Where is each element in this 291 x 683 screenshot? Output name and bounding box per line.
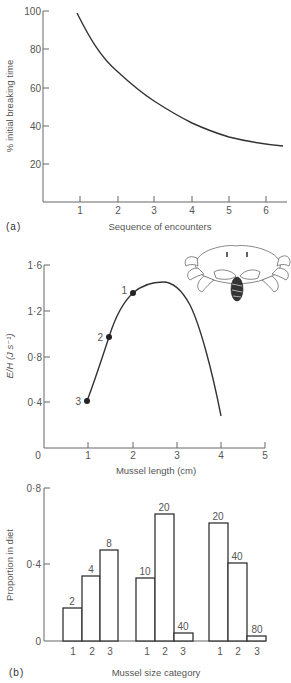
point-label: 1 <box>121 285 127 296</box>
panel-a-yticks: 100 80 60 40 20 <box>24 6 49 170</box>
ytick-label: 0 <box>35 636 41 647</box>
xtick-label: 3 <box>174 450 180 461</box>
panel-a-label: (a) <box>6 221 21 232</box>
bar-label: 40 <box>231 551 243 562</box>
panel-mid-xticks: 0 1 2 3 4 5 <box>35 442 268 461</box>
xtick-label: 1 <box>217 646 223 657</box>
ytick-label: 20 <box>30 159 42 170</box>
ytick-label: 100 <box>24 6 41 17</box>
panel-b-ylabel: Proportion in diet <box>4 529 15 601</box>
ytick-label: 0·4 <box>28 397 43 408</box>
panel-b-xticks: 1 2 3 1 2 3 1 2 3 <box>70 646 260 657</box>
bar-label: 4 <box>88 564 94 575</box>
panel-energy-chart: 1·6 1·2 0·8 0·4 0 1 2 3 4 5 1 2 3 <box>4 246 290 476</box>
ytick-label: 1·2 <box>28 306 43 317</box>
xtick-label: 1 <box>144 646 150 657</box>
point-label: 2 <box>97 332 103 343</box>
xtick-label: 3 <box>180 646 186 657</box>
bar-label: 20 <box>158 502 170 513</box>
data-point <box>106 334 112 340</box>
xtick-label: 0 <box>35 450 41 461</box>
bar <box>63 608 82 641</box>
point-label: 3 <box>75 396 81 407</box>
ytick-label: 60 <box>30 83 42 94</box>
panel-a-ylabel: % initial breaking time <box>4 60 15 152</box>
xtick-label: 2 <box>115 205 121 216</box>
panel-a-chart: 100 80 60 40 20 1 2 3 4 5 6 % initial br… <box>4 6 287 232</box>
panel-a-xticks: 1 2 3 4 5 6 <box>77 196 269 216</box>
panel-b-label: (b) <box>9 667 24 678</box>
bar <box>228 563 247 641</box>
panel-mid-yticks: 1·6 1·2 0·8 0·4 <box>28 260 50 408</box>
xtick-label: 3 <box>107 646 113 657</box>
bar-group-3: 20 40 80 <box>209 511 266 641</box>
xtick-label: 5 <box>262 450 268 461</box>
bar-label: 80 <box>251 624 263 635</box>
bar <box>100 550 118 641</box>
bar-label: 2 <box>69 596 75 607</box>
bar-label: 40 <box>177 621 189 632</box>
bar <box>209 523 228 641</box>
panel-a-xlabel: Sequence of encounters <box>109 221 212 232</box>
ytick-label: 0·4 <box>27 559 42 570</box>
panel-mid-curve <box>87 282 221 416</box>
ytick-label: 0·8 <box>27 483 42 494</box>
xtick-label: 6 <box>263 205 269 216</box>
xtick-label: 2 <box>162 646 168 657</box>
xtick-label: 1 <box>77 205 83 216</box>
figure: 100 80 60 40 20 1 2 3 4 5 6 % initial br… <box>0 0 291 683</box>
ytick-label: 40 <box>30 121 42 132</box>
xtick-label: 1 <box>70 646 76 657</box>
xtick-label: 5 <box>226 205 232 216</box>
bar-group-1: 2 4 8 <box>63 538 118 641</box>
xtick-label: 3 <box>151 205 157 216</box>
xtick-label: 3 <box>254 646 260 657</box>
xtick-label: 4 <box>218 450 224 461</box>
panel-mid-ylabel: E/H (J s⁻¹) <box>4 333 15 378</box>
xtick-label: 2 <box>89 646 95 657</box>
panel-b-yticks: 0·8 0·4 0 <box>27 483 50 647</box>
bar <box>155 514 174 641</box>
ytick-label: 80 <box>30 44 42 55</box>
bar-label: 10 <box>139 566 151 577</box>
xtick-label: 1 <box>85 450 91 461</box>
data-point <box>130 290 136 296</box>
bar <box>136 578 155 641</box>
ytick-label: 1·6 <box>28 260 43 271</box>
bar <box>174 633 193 641</box>
xtick-label: 2 <box>235 646 241 657</box>
bar-label: 8 <box>106 538 112 549</box>
panel-b-xlabel: Mussel size category <box>112 667 201 678</box>
bar-group-2: 10 20 40 <box>136 502 193 641</box>
panel-a-curve <box>77 13 283 146</box>
xtick-label: 2 <box>130 450 136 461</box>
panel-a-axes <box>43 11 287 202</box>
ytick-label: 0·8 <box>28 352 43 363</box>
bar <box>82 576 100 641</box>
bar <box>247 636 266 641</box>
mussel-icon <box>231 277 243 301</box>
panel-mid-xlabel: Mussel length (cm) <box>116 465 196 476</box>
xtick-label: 4 <box>189 205 195 216</box>
panel-b-chart: 0·8 0·4 0 2 4 8 10 20 40 20 40 <box>4 483 266 678</box>
bar-label: 20 <box>212 511 224 522</box>
data-point <box>84 398 90 404</box>
crab-illustration <box>185 246 290 301</box>
